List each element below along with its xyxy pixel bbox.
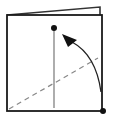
target-point-dot: [51, 25, 57, 31]
back-flap: [7, 7, 100, 15]
fold-diagram: [0, 0, 119, 138]
source-corner-dot: [100, 108, 106, 114]
